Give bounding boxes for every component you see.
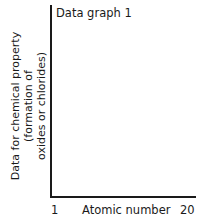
y-axis-label-line-3: oxides or chlorides) bbox=[35, 31, 48, 181]
y-axis-label-line-2: (formation of bbox=[22, 31, 35, 181]
x-axis-label: Atomic number bbox=[82, 203, 170, 217]
y-axis-line bbox=[50, 5, 52, 198]
chart-title: Data graph 1 bbox=[56, 6, 132, 20]
x-tick-max: 20 bbox=[180, 203, 195, 217]
x-tick-min: 1 bbox=[51, 203, 58, 217]
x-axis-line bbox=[50, 196, 196, 198]
y-axis-label: Data for chemical property (formation of… bbox=[9, 31, 48, 181]
y-axis-label-line-1: Data for chemical property bbox=[9, 31, 22, 181]
